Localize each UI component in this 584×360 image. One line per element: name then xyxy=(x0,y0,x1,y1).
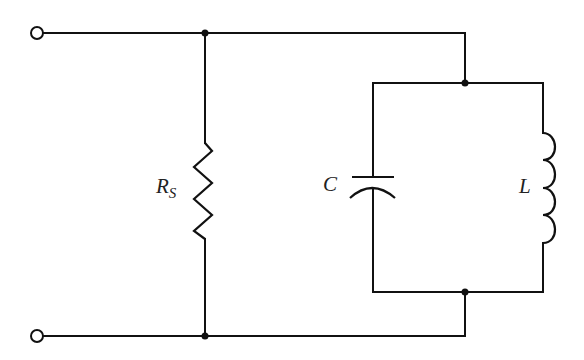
circuit-diagram: RS C L xyxy=(0,0,584,360)
tank-top-wire xyxy=(373,83,543,177)
top-rail-wire xyxy=(43,33,465,83)
junction-bottom-left xyxy=(202,333,209,340)
inductor-l xyxy=(543,133,555,243)
tank-bottom-wire xyxy=(373,190,543,292)
junction-tank-top xyxy=(462,80,469,87)
inductor-label: L xyxy=(518,174,531,198)
resistor-rs xyxy=(194,33,212,336)
bottom-terminal xyxy=(31,330,43,342)
junction-top-left xyxy=(202,30,209,37)
junction-tank-bottom xyxy=(462,289,469,296)
bottom-rail-wire xyxy=(43,292,465,336)
resistor-label: RS xyxy=(155,174,177,201)
top-terminal xyxy=(31,27,43,39)
capacitor-label: C xyxy=(323,172,338,196)
schematic-svg: RS C L xyxy=(0,0,584,360)
